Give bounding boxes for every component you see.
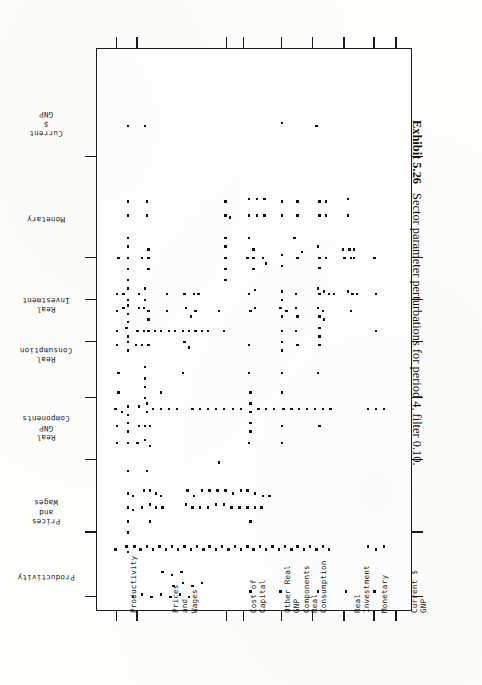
data-point — [248, 198, 250, 200]
data-point — [149, 520, 151, 522]
data-point — [144, 366, 146, 368]
data-point — [318, 425, 320, 427]
scatter-canvas — [97, 49, 411, 610]
data-point — [345, 590, 347, 592]
data-point — [180, 571, 182, 573]
data-point — [127, 321, 129, 323]
data-point — [246, 506, 248, 508]
data-point — [246, 257, 248, 259]
data-point — [246, 545, 248, 547]
data-point — [353, 248, 355, 250]
data-point — [318, 335, 320, 337]
data-point — [249, 310, 251, 312]
data-point — [144, 287, 146, 289]
data-point — [127, 299, 129, 301]
data-point — [182, 330, 184, 332]
data-point — [202, 548, 204, 550]
data-point — [183, 545, 185, 547]
data-point — [256, 214, 258, 216]
data-point — [199, 408, 201, 410]
data-point — [314, 408, 316, 410]
data-point — [117, 391, 119, 393]
data-point — [224, 214, 226, 216]
data-point — [224, 257, 226, 259]
data-point — [160, 495, 162, 497]
data-point — [224, 245, 226, 247]
data-point — [160, 330, 162, 332]
x-axis-tick — [136, 37, 137, 48]
x-axis-label: Current $ GNP — [410, 570, 429, 613]
data-point — [323, 290, 325, 292]
data-point — [279, 307, 281, 309]
data-point — [190, 315, 192, 317]
data-point — [279, 590, 281, 592]
data-point — [296, 200, 298, 202]
data-point — [127, 341, 129, 343]
data-point — [224, 237, 226, 239]
data-point — [256, 198, 258, 200]
x-axis-tick — [395, 37, 396, 48]
data-point — [127, 349, 129, 351]
data-point — [232, 408, 234, 410]
data-point — [315, 125, 317, 127]
x-axis-label: Cost of Capital — [249, 580, 268, 613]
data-point — [141, 344, 143, 346]
x-axis-tick — [243, 37, 244, 48]
data-point — [127, 304, 129, 306]
x-axis-label: Other Real GNP Components — [283, 565, 311, 613]
data-point — [190, 548, 192, 550]
data-point — [281, 442, 283, 444]
data-point — [191, 408, 193, 410]
data-point — [188, 330, 190, 332]
data-point — [373, 257, 375, 259]
data-point — [215, 548, 217, 550]
data-point — [296, 545, 298, 547]
data-point — [127, 268, 129, 270]
data-point — [281, 299, 283, 301]
data-point — [325, 257, 327, 259]
data-point — [348, 248, 350, 250]
data-point — [136, 330, 138, 332]
data-point — [309, 545, 311, 547]
data-point — [263, 214, 265, 216]
data-point — [143, 330, 145, 332]
data-point — [201, 582, 203, 584]
y-axis-labels: Current $ GNPMonetaryReal InvestmentReal… — [0, 48, 94, 611]
data-point — [127, 200, 129, 202]
data-point — [207, 408, 209, 410]
data-point — [318, 327, 320, 329]
data-point — [333, 293, 335, 295]
data-point — [133, 545, 135, 547]
data-point — [350, 257, 352, 259]
data-point — [325, 200, 327, 202]
data-point — [155, 506, 157, 508]
data-point — [215, 503, 217, 505]
data-point — [293, 237, 295, 239]
data-point — [127, 430, 129, 432]
data-point — [265, 408, 267, 410]
data-point — [146, 545, 148, 547]
data-point — [138, 405, 140, 407]
data-point — [298, 408, 300, 410]
data-point — [147, 344, 149, 346]
data-point — [281, 315, 283, 317]
data-point — [127, 520, 129, 522]
x-axis-tick — [312, 37, 313, 48]
data-point — [328, 548, 330, 550]
data-point — [141, 593, 143, 595]
data-point — [323, 318, 325, 320]
data-point — [127, 551, 129, 553]
figure-page: Current $ GNPMonetaryReal InvestmentReal… — [0, 0, 482, 685]
y-axis-label: Current $ GNP — [4, 110, 88, 138]
data-point — [136, 442, 138, 444]
x-axis-tick — [373, 37, 374, 48]
data-point — [144, 397, 146, 399]
data-point — [144, 439, 146, 441]
figure-caption: Exhibit 5.26Sector parameter perturbatio… — [409, 120, 424, 550]
data-point — [281, 265, 283, 267]
data-point — [249, 411, 251, 413]
data-point — [285, 310, 287, 312]
data-point — [155, 492, 157, 494]
y-axis-label: Productivity — [4, 573, 88, 582]
data-point — [144, 125, 146, 127]
